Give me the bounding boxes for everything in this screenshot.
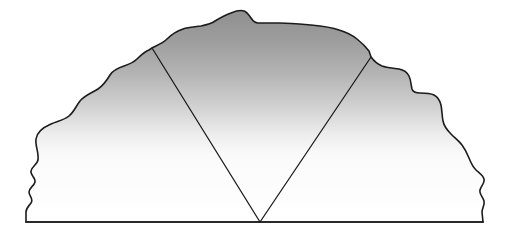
mountain-cross-section-diagram bbox=[0, 0, 515, 237]
diagram-root bbox=[0, 0, 515, 237]
